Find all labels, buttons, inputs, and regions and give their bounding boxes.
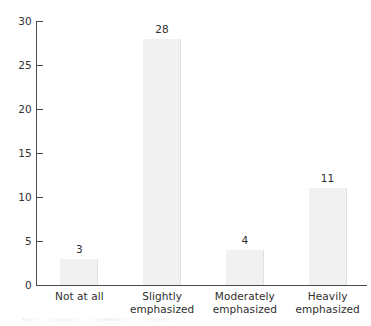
bar[interactable]	[60, 259, 98, 285]
bar-value-label: 11	[303, 172, 353, 184]
x-axis-category-label: Not at all	[35, 290, 123, 303]
y-axis-tick-label: 10	[2, 191, 32, 203]
y-axis-tick	[37, 285, 43, 286]
y-axis-tick-label: 15	[2, 147, 32, 159]
y-axis-tick-label-wrap: 30	[0, 15, 32, 27]
y-axis-tick-label-wrap: 5	[0, 235, 32, 247]
bar-chart: 051015202530 328411 Not at allSlightlyem…	[0, 0, 371, 326]
bar-value-label: 28	[137, 23, 187, 35]
bar[interactable]	[309, 188, 347, 285]
x-axis-label-line: Not at all	[55, 290, 104, 302]
y-axis-tick-label-wrap: 15	[0, 147, 32, 159]
y-axis-tick-label-wrap: 10	[0, 191, 32, 203]
y-axis-tick-label-wrap: 20	[0, 103, 32, 115]
y-axis-tick-label: 25	[2, 59, 32, 71]
y-axis-tick-label-wrap: 0	[0, 279, 32, 291]
bar[interactable]	[226, 250, 264, 285]
x-axis-label-line: Moderately	[215, 290, 275, 302]
y-axis-tick-label-wrap: 25	[0, 59, 32, 71]
bar-value-label: 4	[220, 234, 270, 246]
x-axis-label-line: emphasized	[284, 303, 371, 316]
x-axis-category-label: Moderatelyemphasized	[201, 290, 289, 316]
x-axis-label-line: Heavily	[308, 290, 348, 302]
x-axis-label-line: Slightly	[142, 290, 182, 302]
bar-value-label: 3	[54, 243, 104, 255]
x-axis-line	[36, 285, 367, 286]
x-axis-category-label: Heavilyemphasized	[284, 290, 371, 316]
y-axis-tick-label: 30	[2, 15, 32, 27]
scan-artifact	[22, 318, 182, 321]
x-axis-label-line: emphasized	[201, 303, 289, 316]
y-axis-tick-label: 0	[2, 279, 32, 291]
bar[interactable]	[143, 39, 181, 285]
y-axis-tick-label: 5	[2, 235, 32, 247]
y-axis-tick-label: 20	[2, 103, 32, 115]
x-axis-category-label: Slightlyemphasized	[118, 290, 206, 316]
x-axis-label-line: emphasized	[118, 303, 206, 316]
